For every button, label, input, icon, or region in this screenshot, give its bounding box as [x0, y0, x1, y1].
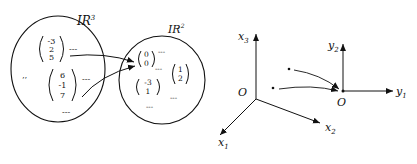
codomain-ellipsis-mid: --- [155, 65, 163, 73]
svg-text:7: 7 [60, 91, 65, 100]
domain-ellipsis-bottom: --- [62, 108, 70, 117]
axis-y1-label: y1 [395, 85, 407, 100]
axis-x1 [220, 99, 256, 135]
codomain-label: IR2 [167, 22, 185, 36]
axis-x2 [256, 99, 320, 123]
point-arrow-b [279, 87, 338, 91]
svg-text:2: 2 [178, 74, 183, 83]
point-arrow-a [294, 70, 339, 89]
linear-map-figure: IR3 IR2 -3 2 5 --- 6 -1 7 --- ’’ --- 0 0… [0, 0, 417, 164]
svg-text:-1: -1 [59, 81, 67, 90]
point-a [288, 68, 291, 71]
svg-text:0: 0 [144, 59, 149, 68]
svg-text:0: 0 [144, 50, 149, 59]
codomain-ellipsis-bottom: --- [146, 103, 154, 111]
svg-text:---: --- [69, 45, 77, 54]
origin-left-label: O [238, 86, 247, 99]
axes-3d: O x3 x1 x2 [218, 30, 336, 151]
figure-svg: IR3 IR2 -3 2 5 --- 6 -1 7 --- ’’ --- 0 0… [0, 0, 417, 164]
svg-text:-3: -3 [144, 78, 152, 87]
svg-text:---: --- [158, 48, 166, 56]
vector-b: 6 -1 7 --- [49, 69, 90, 101]
svg-text:6: 6 [60, 71, 65, 80]
domain-label: IR3 [76, 14, 96, 28]
domain-dots: ’’ [22, 75, 27, 84]
origin-right-point [342, 90, 345, 93]
vector-c: 1 2 [173, 64, 189, 84]
svg-text:1: 1 [146, 87, 151, 96]
point-b [272, 87, 275, 90]
axis-x3-label: x3 [238, 30, 249, 45]
codomain-set-r2: IR2 [119, 22, 205, 124]
axis-y2-label: y2 [327, 39, 339, 54]
domain-set-r3: IR3 [11, 14, 105, 122]
vector-a: -3 2 5 --- [40, 36, 78, 62]
axes-2d: O y2 y1 [327, 39, 407, 109]
origin-right-label: O [337, 96, 346, 109]
vector-d: -3 1 [137, 78, 160, 96]
axis-x1-label: x1 [218, 136, 229, 151]
svg-text:---: --- [82, 75, 90, 84]
svg-text:1: 1 [178, 65, 183, 74]
axis-x2-label: x2 [325, 121, 336, 136]
codomain-ellipsis-right: --- [170, 94, 178, 102]
svg-text:5: 5 [49, 53, 54, 62]
